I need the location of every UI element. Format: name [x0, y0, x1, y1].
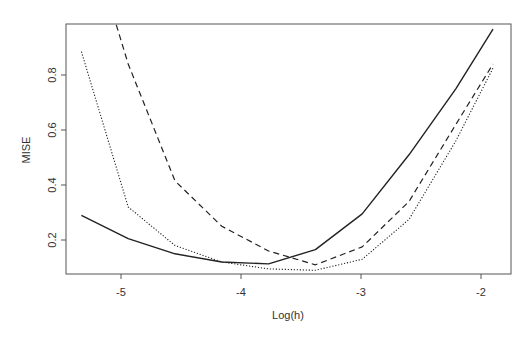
plot-frame — [66, 24, 511, 274]
x-tick-label: -3 — [356, 286, 366, 298]
mise-line-chart: -5-4-3-2 0.20.40.60.8 Log(h) MISE — [0, 0, 530, 339]
series-layer — [81, 0, 493, 270]
y-tick-label: 0.4 — [46, 177, 58, 192]
y-tick-label: 0.8 — [46, 67, 58, 82]
y-axis-title: MISE — [20, 137, 32, 164]
x-tick-label: -2 — [476, 286, 486, 298]
series-dotted-line — [81, 52, 493, 271]
x-tick-label: -5 — [116, 286, 126, 298]
x-tick-label: -4 — [236, 286, 246, 298]
series-solid-line — [81, 29, 493, 264]
x-axis: -5-4-3-2 — [116, 274, 486, 298]
y-tick-label: 0.6 — [46, 122, 58, 137]
x-axis-title: Log(h) — [272, 309, 304, 321]
y-axis: 0.20.40.60.8 — [46, 67, 66, 247]
series-dashed-line — [81, 0, 493, 265]
y-tick-label: 0.2 — [46, 232, 58, 247]
